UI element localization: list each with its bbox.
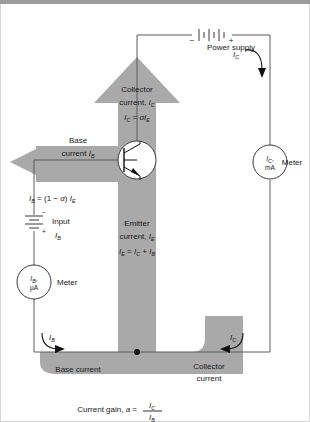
bottom-base-current-label: Base current <box>55 365 101 374</box>
ic-top-sub: C <box>235 54 239 60</box>
collector-label-line2: current, IC <box>119 98 155 108</box>
ceq-rel: = <box>130 113 139 122</box>
caption-rel: = <box>130 405 137 414</box>
beq-p2: = (1 − <box>35 194 60 203</box>
base-label-line1: Base <box>69 136 88 145</box>
base-line2-sub: B <box>91 153 95 159</box>
collector-line2-sub: C <box>151 102 155 108</box>
ib-bottom-sub: B <box>51 337 55 343</box>
caption-pre: Current gain, <box>77 405 125 414</box>
input-source-plus: + <box>42 228 46 235</box>
emitter-label-line2: current, IE <box>119 232 155 242</box>
input-source-label: Input <box>52 217 71 226</box>
base-meter-line2: μA <box>30 284 39 292</box>
base-line2-pre: current <box>62 149 89 158</box>
eeq-p7: B <box>151 251 155 257</box>
input-current-sub: B <box>57 235 61 241</box>
beq-p6: E <box>72 198 76 204</box>
base-label-line2: current IB <box>62 149 95 159</box>
bottom-collector-current-line1: Collector <box>193 362 225 371</box>
transistor-symbol <box>118 141 156 180</box>
bottom-collector-current-line2: current <box>197 374 223 383</box>
bottom-junction-dot <box>134 349 140 355</box>
ic-bottom-sub: C <box>232 337 236 343</box>
top-edge-band <box>0 0 310 4</box>
transistor-current-diagram: Power supply − + Collector current, IC I… <box>0 0 310 422</box>
collector-line2-pre: current, <box>119 98 148 107</box>
collector-meter-line2: mA <box>265 164 275 171</box>
power-supply-minus: − <box>190 36 195 45</box>
collector-label-line1: Collector <box>121 85 153 94</box>
collector-meter-caption: Meter <box>282 158 303 167</box>
collector-meter-comma: , <box>272 155 274 162</box>
ceq-rhs-sub: E <box>146 117 150 123</box>
power-supply-plus: + <box>229 36 234 45</box>
caption-num-sub: C <box>151 405 155 411</box>
emitter-line2-sub: E <box>151 236 155 242</box>
base-meter-caption: Meter <box>57 278 78 287</box>
eeq-p2: = <box>125 247 134 256</box>
emitter-line2-pre: current, <box>119 232 148 241</box>
caption-den-sub: B <box>151 417 155 422</box>
eeq-p5: + <box>140 247 149 256</box>
base-equation: IB = (1 − α) IE <box>29 194 76 204</box>
input-source-minus: − <box>42 209 46 216</box>
emitter-label-line1: Emitter <box>124 219 150 228</box>
base-meter-comma: , <box>36 275 38 282</box>
caption-text: Current gain, a = <box>77 405 137 414</box>
diagram-canvas: Power supply − + Collector current, IC I… <box>0 0 310 422</box>
